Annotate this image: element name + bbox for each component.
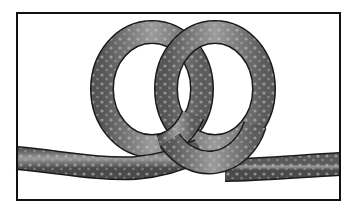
knot-illustration bbox=[0, 0, 357, 211]
right-rope-end bbox=[225, 164, 340, 170]
